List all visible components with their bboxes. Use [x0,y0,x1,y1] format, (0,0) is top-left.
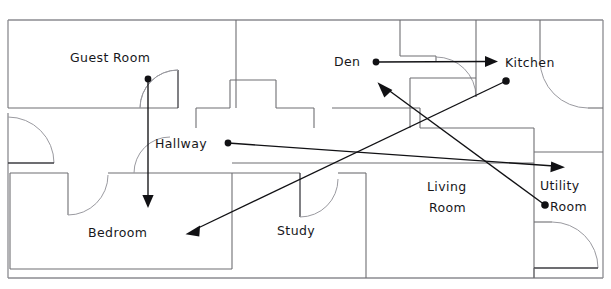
door-arc-utility [552,222,598,268]
room-label-kitchen: Kitchen [505,55,555,70]
connection-arrow-head [550,162,565,173]
room-label-guest-room: Guest Room [70,50,150,65]
room-label-den: Den [334,54,360,69]
room-label-bedroom: Bedroom [88,225,147,240]
door-arc-study [300,179,338,217]
connection-arrow-head [142,195,153,208]
floor-plan-canvas: Guest Room Den Kitchen Hallway Bedroom S… [0,0,611,289]
door-arc-hall-stub-a [140,70,178,108]
door-arc-kitchen [436,57,476,97]
room-label-utility-room-line2: Room [550,199,587,214]
room-label-utility-room-line1: Utility [540,178,580,193]
door-arc-den-left [140,70,178,108]
door-arc-hall-left [8,117,54,163]
connection-hallway-to-utility-room [225,140,565,173]
floor-plan-diagram: Guest Room Den Kitchen Hallway Bedroom S… [0,0,611,289]
connection-arrow-head [485,56,498,67]
connection-arrow-head [378,82,393,97]
room-label-study: Study [277,223,315,238]
room-label-living-room-line2: Room [429,200,466,215]
room-label-living-room-line1: Living [427,179,467,194]
connection-arrow-head [186,226,201,237]
room-label-hallway: Hallway [155,136,207,151]
connection-den-to-kitchen [373,56,498,67]
door-arc-bedroom [68,175,108,215]
connection-line [376,62,488,63]
